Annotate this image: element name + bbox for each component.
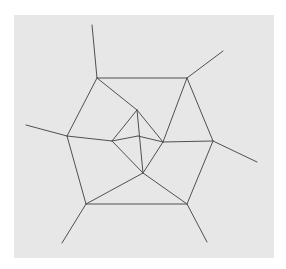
graph-diagram (0, 0, 286, 269)
edge-outer_bottom_left-spike_bottom_left_end (62, 204, 86, 243)
edge-outer_left-inner_left (67, 136, 112, 141)
edge-inner_right-inner_bottom (143, 142, 163, 173)
edge-outer_left-outer_top_left (67, 78, 97, 136)
edge-outer_right-spike_right_end (213, 141, 257, 162)
edge-outer_right-inner_right (163, 141, 213, 142)
edge-outer_right-outer_bottom_right (187, 141, 213, 204)
edge-outer_top_left-inner_top (97, 78, 137, 110)
edge-outer_bottom_left-inner_bottom (86, 173, 143, 204)
edge-outer_left-spike_left_end (26, 125, 67, 136)
edge-outer_top_right-inner_right (163, 78, 187, 142)
edge-outer_top_right-outer_right (187, 78, 213, 141)
edge-inner_top-inner_left (112, 110, 137, 141)
edge-inner_left-inner_bottom (112, 141, 143, 173)
edge-outer_bottom_right-spike_bottom_right_end (187, 204, 207, 242)
edge-outer_bottom_right-inner_bottom (143, 173, 187, 204)
edge-outer_top_right-spike_top_right_end (187, 51, 223, 78)
edge-inner_top-inner_bottom (137, 110, 143, 173)
edge-outer_bottom_left-outer_left (67, 136, 86, 204)
edge-outer_top_left-spike_top_left_end (92, 25, 97, 78)
